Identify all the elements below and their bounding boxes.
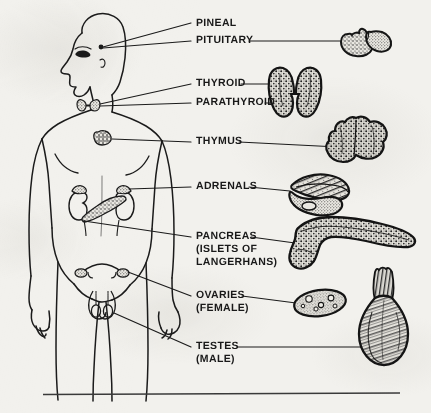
adrenal-glands-illustration	[289, 174, 349, 215]
label-adrenals: ADRENALS	[196, 181, 257, 193]
ovary-organ-illustration	[292, 287, 347, 320]
label-parathyroid: PARATHYROID	[196, 97, 275, 109]
leader-thymus	[112, 139, 191, 142]
leader-ovaries-organ	[242, 296, 296, 303]
label-testes: TESTES	[196, 341, 239, 353]
leader-pancreas-organ	[251, 237, 295, 243]
leader-adrenals	[129, 187, 191, 189]
testis-organ-illustration	[359, 268, 408, 365]
label-pancreas: PANCREAS	[196, 231, 257, 243]
ovaries-in-body	[75, 264, 129, 278]
label-pancreas-line2: (ISLETS OF	[196, 244, 257, 256]
leader-parathyroid	[100, 103, 191, 106]
leader-pancreas	[84, 221, 191, 237]
pituitary-gland-illustration	[341, 29, 391, 56]
label-pituitary: PITUITARY	[196, 35, 253, 47]
label-pancreas-line3: LANGERHANS)	[196, 257, 277, 269]
thyroid-gland-illustration	[269, 68, 322, 117]
label-ovaries-line2: (FEMALE)	[196, 303, 249, 315]
leader-pituitary	[103, 41, 191, 48]
endocrine-system-figure: PINEAL PITUITARY THYROID PARATHYROID THY…	[0, 0, 431, 413]
footer-rule	[43, 393, 400, 395]
thymus-gland-illustration	[326, 117, 387, 162]
thymus-in-body	[94, 131, 111, 145]
label-pineal: PINEAL	[196, 18, 237, 30]
label-thymus: THYMUS	[196, 136, 242, 148]
label-testes-line2: (MALE)	[196, 354, 235, 366]
thyroid-in-body	[77, 100, 100, 111]
leader-thymus-organ	[239, 142, 338, 147]
leader-ovaries	[128, 272, 191, 296]
label-thyroid: THYROID	[196, 78, 246, 90]
testes-in-body	[89, 291, 116, 319]
label-ovaries: OVARIES	[196, 290, 245, 302]
pancreas-organ-illustration	[289, 217, 415, 269]
leader-pineal	[103, 23, 191, 47]
